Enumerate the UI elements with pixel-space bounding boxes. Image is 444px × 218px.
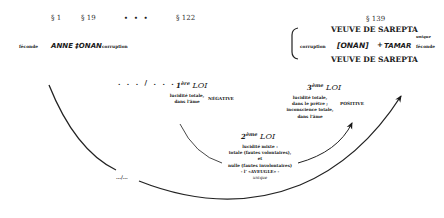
inner-arc-2-to-3 (298, 123, 352, 163)
outer-arc-left (49, 85, 116, 170)
feconde-right-label: féconde (416, 44, 435, 50)
feconde-label: féconde (19, 44, 38, 50)
onan-name: ONAN (340, 41, 365, 50)
middle-separator: . . . / . . . (118, 78, 176, 87)
law-1-title: 1ère LOI (176, 80, 207, 90)
unique-superscript: unique (416, 34, 431, 40)
veuve-top: VEUVE DE SAREPTA (331, 25, 418, 34)
law-1-polarity: NÉGATIVE (208, 96, 234, 102)
onan-boxed: [ONAN] (337, 41, 369, 50)
section-139: § 139 (366, 15, 385, 23)
inner-arc-1-to-2 (180, 124, 222, 163)
veuve-bottom: VEUVE DE SAREPTA (331, 55, 418, 64)
law-3-polarity: POSITIVE (340, 101, 364, 107)
section-122: § 122 (176, 14, 195, 22)
corruption-right-label: corruption (300, 44, 326, 50)
law-3-description: lucidité totale, dans le prêtre ; incons… (285, 95, 335, 120)
corruption-label: corruption (102, 44, 128, 50)
bottom-separator: …/… (116, 174, 128, 180)
section-19: § 19 (81, 14, 96, 22)
law-1-description: lucidité totale, dans l'âme (167, 93, 207, 105)
anne-onan: ANNE ‡ONAN (51, 42, 102, 50)
section-ellipsis: • • • (124, 14, 150, 21)
law-2-title: 2ème LOI (241, 131, 275, 141)
tamar-name: TAMAR (384, 42, 411, 50)
section-1: § 1 (51, 14, 61, 22)
law-2-description: lucidité mixte : totale (fautes volontai… (222, 144, 298, 181)
brace-bracket (292, 28, 298, 59)
plus-sign: + (377, 41, 383, 49)
law-3-title: 3ème LOI (307, 82, 341, 92)
